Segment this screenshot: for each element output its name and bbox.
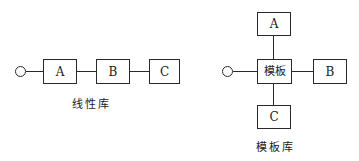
template-entry-circle-icon xyxy=(222,66,233,77)
template-edge-entry-center xyxy=(233,71,257,72)
linear-node-c-label: C xyxy=(160,66,169,78)
template-node-c-label: C xyxy=(269,111,278,123)
template-node-b: B xyxy=(313,59,347,84)
diagram-canvas: A B C 线性库 A 模板 B C xyxy=(0,0,359,161)
linear-edge-entry-a xyxy=(26,71,43,72)
template-center-node-label: 模板 xyxy=(264,66,286,77)
template-edge-center-b xyxy=(292,71,313,72)
linear-node-a: A xyxy=(43,59,77,84)
template-node-a: A xyxy=(257,12,291,36)
template-node-b-label: B xyxy=(326,66,335,78)
template-library-caption: 模板库 xyxy=(256,138,295,154)
linear-node-b: B xyxy=(96,59,130,84)
linear-node-b-label: B xyxy=(109,66,118,78)
template-edge-center-a xyxy=(273,36,274,59)
linear-node-c: C xyxy=(149,59,180,84)
linear-library-caption: 线性库 xyxy=(72,95,111,111)
linear-edge-b-c xyxy=(130,71,149,72)
linear-entry-circle-icon xyxy=(15,66,26,77)
linear-node-a-label: A xyxy=(56,66,65,78)
template-center-node: 模板 xyxy=(257,59,292,84)
linear-edge-a-b xyxy=(77,71,96,72)
template-edge-center-c xyxy=(273,84,274,105)
template-node-c: C xyxy=(257,105,291,129)
template-node-a-label: A xyxy=(270,18,279,30)
